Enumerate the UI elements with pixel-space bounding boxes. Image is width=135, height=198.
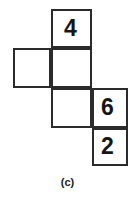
net-square-label-bottom-right: 2 [101, 135, 114, 158]
net-square-lower-center [51, 88, 92, 128]
cube-net-figure: 4 6 2 (c) [0, 0, 135, 198]
net-square-label-lower-right: 6 [101, 96, 114, 119]
net-square-middle-left [13, 48, 51, 88]
figure-caption: (c) [0, 176, 135, 188]
net-square-label-top: 4 [64, 17, 77, 40]
net-square-middle-center [51, 48, 92, 88]
